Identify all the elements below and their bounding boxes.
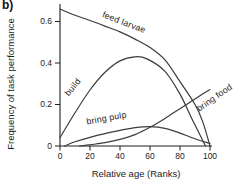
curve-bring-pulp	[65, 127, 211, 146]
x-tick-label-40: 40	[115, 151, 125, 161]
x-tick-label-20: 20	[85, 151, 95, 161]
curve-label-bring-pulp: bring pulp	[86, 110, 128, 127]
x-tick-label-80: 80	[175, 151, 185, 161]
task-performance-chart: b) Frequency of task performance Relativ…	[0, 0, 239, 190]
y-tick-label-0_6: 0.6	[40, 16, 52, 26]
curve-label-build: build	[63, 76, 83, 98]
x-tick-labels: 0 20 40 60 80 100	[58, 151, 218, 161]
figure-panel-b: b) Frequency of task performance Relativ…	[0, 0, 239, 190]
x-tick-label-60: 60	[145, 151, 155, 161]
panel-label: b)	[2, 0, 13, 12]
curve-build	[60, 57, 206, 146]
y-tick-label-0_2: 0.2	[40, 99, 52, 109]
y-tick-label-0: 0	[47, 141, 52, 151]
x-axis-label: Relative age (Ranks)	[92, 168, 181, 179]
curve-label-bring-food: bring food	[195, 82, 234, 114]
curve-label-feed-larvae: feed larvae	[101, 9, 147, 35]
x-tick-label-100: 100	[203, 151, 217, 161]
y-tick-label-0_4: 0.4	[40, 58, 52, 68]
y-axis-label: Frequency of task performance	[5, 18, 16, 149]
curve-labels: feed larvaebuildbring pulpbring food	[63, 9, 234, 126]
y-tick-labels: 0 0.2 0.4 0.6	[40, 16, 52, 151]
x-tick-label-0: 0	[58, 151, 63, 161]
